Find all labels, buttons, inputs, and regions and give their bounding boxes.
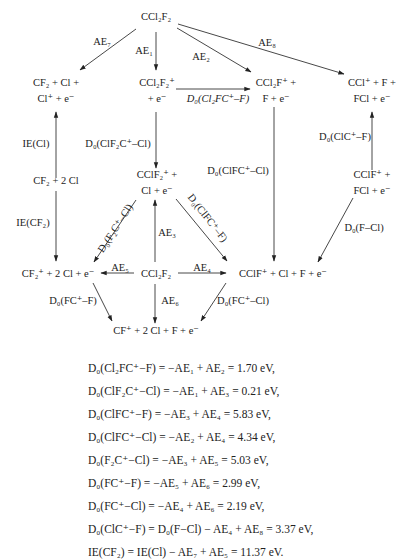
node-ccl2f2-top: CCl₂F₂ [141,11,171,22]
label-ae4: AE₄ [193,262,211,273]
node-cf2plus: CF₂⁺ + 2 Cl + e⁻ [22,268,94,279]
node-ccl2fplus-line1: CCl₂F⁺ + [256,77,297,88]
label-ie-cf2: IE(CF₂) [16,217,50,229]
label-d0-clfc-cl: D₀(ClFC⁺–Cl) [207,165,269,177]
node-cfplus: CF⁺ + 2 Cl + F + e⁻ [113,325,199,336]
node-cclplus-line2: FCl + e⁻ [353,93,390,104]
arrow-ae8 [178,24,344,74]
node-ccl2fplus-line2: F + e⁻ [262,93,289,104]
node-cf2-cl-clplus-line1: CF₂ + Cl + [33,77,79,88]
node-ccl2f2-center: CCl₂F₂ [141,268,171,279]
node-cf2-cl-clplus-line2: Cl⁺ + e⁻ [38,93,75,104]
label-ae1: AE₁ [135,45,153,56]
node-ccl2f2plus-line1: CCl₂F₂⁺ [139,77,175,88]
fragmentation-diagram: CCl₂F₂ CF₂ + Cl + Cl⁺ + e⁻ CCl₂F₂⁺ + e⁻ … [0,0,412,560]
equation-6: D₀(FC⁺−F) = −AE₅ + AE₆ = 2.99 eV, [88,477,260,490]
node-cf2-2cl: CF₂ + 2 Cl [33,175,79,186]
label-d0-f2c-cl: D₀(F₂C⁺–Cl) [95,201,136,254]
equation-1: D₀(Cl₂FC⁺−F) = −AE₁ + AE₂ = 1.70 eV, [88,362,275,375]
label-ae5: AE₅ [111,262,129,273]
equation-2: D₀(ClF₂C⁺−Cl) = −AE₁ + AE₃ = 0.21 eV, [88,385,279,398]
label-ae8: AE₈ [258,37,276,48]
node-cclf2plus-line2: Cl + e⁻ [141,185,172,196]
node-cclplus-line1: CCl⁺ + F + [348,77,396,88]
label-d0-cl2fc-f: D₀(Cl₂FC⁺–F) [186,93,250,105]
label-ae2: AE₂ [192,51,210,62]
node-cclfplus: CClF⁺ + Cl + F + e⁻ [239,268,327,279]
label-d0-clf2c-cl: D₀(ClF₂C⁺–Cl) [85,138,151,150]
label-d0-clc-f: D₀(ClC⁺–F) [319,131,371,143]
label-ie-cl: IE(Cl) [23,138,50,150]
label-d0-fc-f: D₀(FC⁺–F) [49,295,97,307]
node-cclfplus-fcl-line2: FCl + e⁻ [353,185,390,196]
node-ccl2f2plus-line2: + e⁻ [148,93,167,104]
label-d0-fc-cl: D₀(FC⁺–Cl) [217,295,269,307]
label-ae6: AE₆ [161,295,179,306]
equations: D₀(Cl₂FC⁺−F) = −AE₁ + AE₂ = 1.70 eV, D₀(… [88,362,313,559]
equation-7: D₀(FC⁺−Cl) = −AE₄ + AE₆ = 2.19 eV, [88,500,265,513]
node-cclfplus-fcl-line1: CClF⁺ + [354,169,391,180]
equation-3: D₀(ClFC⁺−F) = −AE₃ + AE₄ = 5.83 eV, [88,408,271,421]
label-ae7: AE₇ [93,36,111,47]
label-ae3: AE₃ [158,227,176,238]
equation-4: D₀(ClFC⁺−Cl) = −AE₂ + AE₄ = 4.34 eV, [88,431,275,444]
equation-8: D₀(ClC⁺−F) = D₀(F−Cl) − AE₄ + AE₈ = 3.37… [88,523,313,536]
equation-5: D₀(F₂C⁺−Cl) = −AE₃ + AE₅ = 5.03 eV, [88,454,269,467]
equation-9: IE(CF₂) = IE(Cl) − AE₇ + AE₅ = 11.37 eV. [88,546,284,559]
label-d0-f-cl-text: D₀(F–Cl) [344,222,384,234]
node-cclf2plus-line1: CClF₂⁺ + [137,169,178,180]
